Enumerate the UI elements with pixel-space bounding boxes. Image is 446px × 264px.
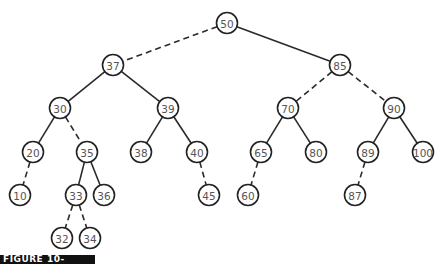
node-label: 40 — [190, 147, 203, 159]
tree-node-100: 100 — [413, 142, 434, 163]
tree-node-65: 65 — [251, 142, 272, 163]
node-label: 100 — [413, 147, 433, 159]
tree-node-32: 32 — [52, 228, 73, 249]
tree-node-45: 45 — [199, 185, 220, 206]
tree-node-39: 39 — [158, 98, 179, 119]
tree-node-20: 20 — [23, 142, 44, 163]
tree-node-70: 70 — [278, 98, 299, 119]
tree-node-37: 37 — [103, 55, 124, 76]
tree-node-30: 30 — [50, 98, 71, 119]
edge-70-80-solid — [294, 117, 311, 143]
node-label: 39 — [161, 103, 174, 115]
figure-caption-text: FIGURE 10- — [3, 255, 65, 264]
node-label: 10 — [13, 190, 26, 202]
edge-35-36-solid — [91, 162, 100, 185]
edge-90-89-solid — [373, 117, 388, 143]
tree-node-38: 38 — [131, 142, 152, 163]
tree-node-34: 34 — [80, 228, 101, 249]
edge-85-90-dashed — [348, 72, 386, 102]
tree-node-90: 90 — [384, 98, 405, 119]
node-label: 45 — [202, 190, 215, 202]
edge-50-85-solid — [237, 27, 330, 62]
edge-89-87-dashed — [358, 162, 365, 185]
tree-node-50: 50 — [217, 13, 238, 34]
node-label: 90 — [387, 103, 400, 115]
edge-20-10-dashed — [23, 162, 30, 185]
edge-35-33-solid — [79, 162, 85, 185]
node-label: 34 — [83, 233, 97, 245]
node-label: 35 — [80, 147, 93, 159]
node-label: 50 — [220, 18, 233, 30]
node-label: 20 — [26, 147, 39, 159]
figure-caption-bar: FIGURE 10- — [0, 255, 95, 264]
node-label: 30 — [53, 103, 66, 115]
tree-node-40: 40 — [187, 142, 208, 163]
node-label: 65 — [254, 147, 267, 159]
tree-node-85: 85 — [330, 55, 351, 76]
node-label: 32 — [55, 233, 68, 245]
tree-node-36: 36 — [94, 185, 115, 206]
node-label: 33 — [69, 190, 82, 202]
tree-canvas: 5037853039709020353840658089100103336456… — [0, 0, 446, 264]
node-label: 70 — [281, 103, 294, 115]
edge-33-32-dashed — [65, 205, 72, 228]
edge-90-100-solid — [400, 117, 417, 143]
edge-37-39-solid — [121, 71, 159, 101]
edge-37-30-solid — [68, 72, 105, 102]
edge-40-45-dashed — [200, 162, 206, 185]
node-label: 60 — [241, 190, 254, 202]
node-label: 38 — [134, 147, 147, 159]
tree-diagram: 5037853039709020353840658089100103336456… — [0, 0, 446, 264]
tree-node-10: 10 — [10, 185, 31, 206]
edge-30-20-solid — [38, 117, 54, 143]
edge-50-37-dashed — [123, 27, 217, 62]
node-label: 37 — [106, 60, 119, 72]
edge-33-34-dashed — [79, 205, 86, 228]
node-label: 89 — [361, 147, 374, 159]
node-label: 80 — [309, 147, 322, 159]
edge-39-38-solid — [146, 117, 162, 143]
tree-node-35: 35 — [77, 142, 98, 163]
tree-node-60: 60 — [238, 185, 259, 206]
tree-node-33: 33 — [66, 185, 87, 206]
tree-node-80: 80 — [306, 142, 327, 163]
node-label: 85 — [333, 60, 346, 72]
node-label: 36 — [97, 190, 111, 202]
edge-65-60-dashed — [251, 162, 258, 185]
tree-node-89: 89 — [358, 142, 379, 163]
edge-39-40-solid — [174, 117, 191, 143]
edge-30-35-dashed — [65, 117, 81, 143]
tree-node-87: 87 — [345, 185, 366, 206]
edge-70-65-solid — [266, 117, 282, 143]
edge-85-70-dashed — [296, 72, 332, 102]
node-label: 87 — [348, 190, 361, 202]
